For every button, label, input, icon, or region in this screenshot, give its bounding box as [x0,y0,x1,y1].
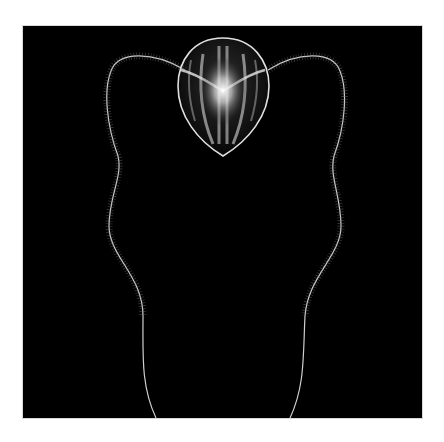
right-tentacle [268,56,345,418]
jelly-body [178,38,269,156]
comb-jelly-illustration [23,26,422,418]
left-tentacle [107,56,185,418]
photo-frame [23,26,422,418]
